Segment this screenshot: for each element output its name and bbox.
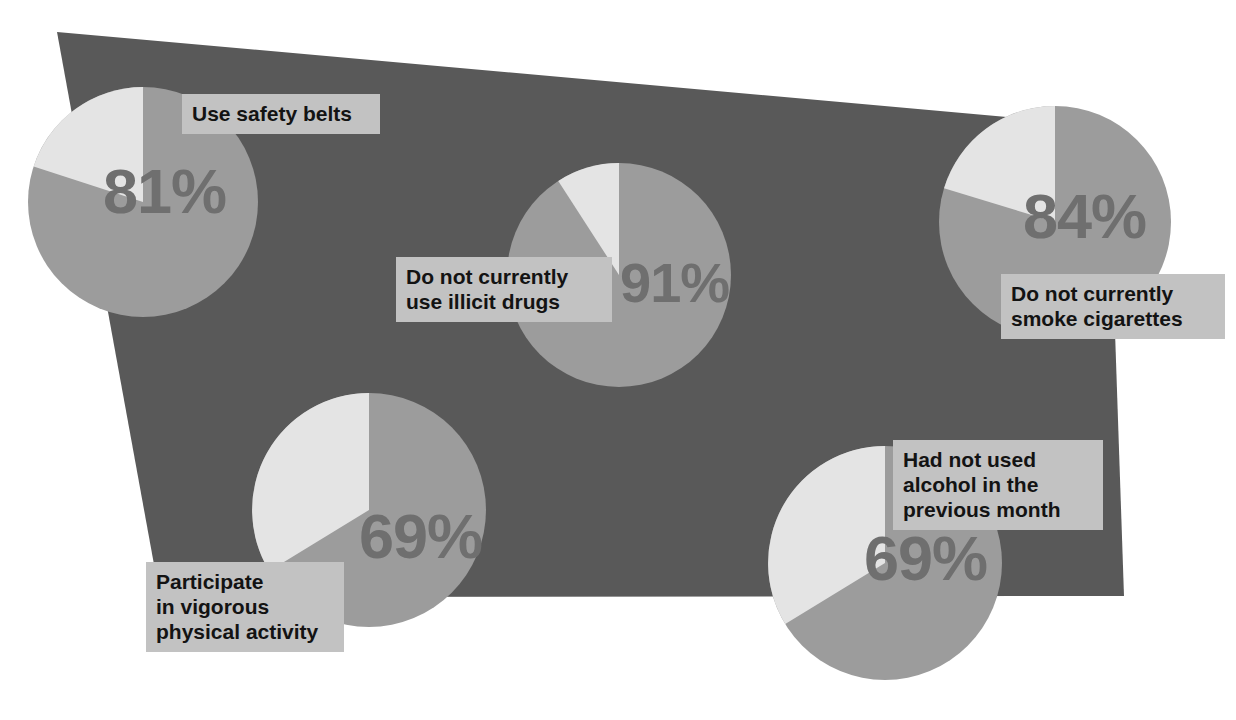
- percent-value-illicit-drugs: 91%: [620, 255, 729, 311]
- percent-value-physical-activity: 69%: [359, 505, 482, 568]
- label-smoke-cigarettes: Do not currently smoke cigarettes: [1001, 274, 1225, 339]
- percent-value-smoke-cigarettes: 84%: [1023, 185, 1146, 248]
- infographic-canvas: 81% 91% 84% 69% 69% Use safety belts Do …: [0, 0, 1236, 720]
- percent-value-safety-belts: 81%: [103, 160, 226, 223]
- percent-value-alcohol: 69%: [864, 527, 987, 590]
- label-physical-activity: Participate in vigorous physical activit…: [146, 562, 344, 652]
- label-alcohol: Had not used alcohol in the previous mon…: [893, 440, 1103, 530]
- label-illicit-drugs: Do not currently use illicit drugs: [396, 257, 612, 322]
- label-safety-belts: Use safety belts: [182, 94, 380, 134]
